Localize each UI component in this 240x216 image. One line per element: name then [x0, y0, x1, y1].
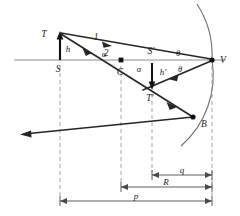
- label-ray-one: 1: [94, 32, 99, 42]
- label-theta-upper: θ: [176, 48, 180, 58]
- ray-two-incident: [61, 34, 193, 117]
- dimension-q-arrow-right: [205, 172, 212, 178]
- label-object-base: S: [56, 64, 61, 74]
- dimension-r-arrow-right: [205, 184, 212, 190]
- label-dimension-q: q: [180, 165, 185, 175]
- ray-two-reflected-arrowhead: [20, 131, 32, 138]
- dimension-p-arrow-left: [60, 198, 67, 204]
- label-image-top: T': [146, 93, 154, 103]
- label-theta-lower: θ: [178, 64, 182, 74]
- dimension-q-arrow-left: [152, 172, 159, 178]
- label-dimension-p: p: [133, 191, 139, 201]
- point-dot-vertex: [209, 57, 214, 62]
- diagram-canvas: T S h 1 2 C α α S' h' T' θ θ V B q R p: [0, 0, 240, 216]
- label-alpha-upper: α: [102, 49, 107, 59]
- label-alpha-lower: α: [137, 64, 142, 74]
- mirror-ray-diagram: T S h 1 2 C α α S' h' T' θ θ V B q R p: [0, 0, 240, 216]
- mirror-arc: [181, 4, 213, 146]
- dimension-p-arrow-right: [205, 198, 212, 204]
- ray-two-reflected: [24, 117, 193, 134]
- label-center-of-curvature: C: [117, 67, 124, 77]
- label-reflection-point: B: [201, 119, 207, 129]
- point-dot-center: [119, 58, 124, 63]
- label-object-height: h: [66, 44, 71, 54]
- label-dimension-r: R: [162, 177, 169, 187]
- label-image-height: h': [160, 67, 168, 77]
- ray-one-incident: [61, 33, 211, 59]
- label-object-top: T: [41, 29, 47, 39]
- ray-one-arrowhead: [102, 42, 112, 48]
- point-dot-b: [190, 114, 195, 119]
- label-vertex: V: [220, 55, 227, 65]
- dimension-r-arrow-left: [121, 184, 128, 190]
- label-image-base: S': [148, 46, 156, 56]
